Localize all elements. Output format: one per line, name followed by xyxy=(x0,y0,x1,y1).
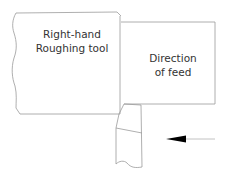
workpiece-label: Right-hand Roughing tool xyxy=(24,27,120,55)
workpiece-label-line2: Roughing tool xyxy=(24,41,120,55)
workpiece-label-line1: Right-hand xyxy=(24,27,120,41)
feed-arrow-icon xyxy=(166,136,215,143)
feed-label-line1: Direction xyxy=(130,51,216,65)
feed-direction-label: Direction of feed xyxy=(130,51,216,79)
feed-label-line2: of feed xyxy=(130,65,216,79)
